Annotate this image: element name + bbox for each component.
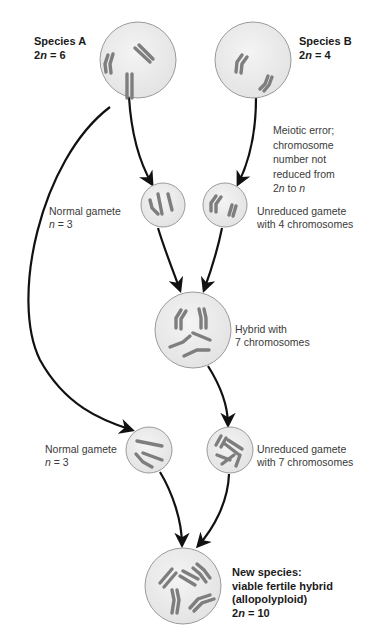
label-hybrid: Hybrid with 7 chromosomes xyxy=(235,323,310,349)
speciation-diagram xyxy=(0,0,376,642)
cell-unreduced-gamete-2 xyxy=(207,427,253,473)
hybrid-line1: Hybrid with xyxy=(235,323,310,336)
arrow-unreduced2-to-new xyxy=(198,474,229,546)
label-normal-gamete-1: Normal gamete n = 3 xyxy=(49,205,121,231)
label-normal-gamete-2: Normal gamete n = 3 xyxy=(45,443,117,469)
ploidy-var: n xyxy=(305,49,312,61)
cell-new-species xyxy=(145,548,221,624)
label-meiotic-error: Meiotic error; chromosome number not red… xyxy=(273,123,335,196)
species-b-ploidy: 2n = 4 xyxy=(299,49,352,63)
meiotic-line-3: number not xyxy=(273,152,335,167)
species-a-name: Species A xyxy=(34,35,86,49)
ploidy-var: n xyxy=(238,607,245,619)
label-unreduced-gamete-2: Unreduced gamete with 7 chromosomes xyxy=(257,443,353,469)
ploidy-var: n xyxy=(40,49,47,61)
text-n: n xyxy=(299,182,305,194)
unreduced-gamete-1-line1: Unreduced gamete xyxy=(257,205,353,218)
ploidy-suffix: = 3 xyxy=(55,218,73,230)
unreduced-gamete-2-line2: with 7 chromosomes xyxy=(257,456,353,469)
meiotic-line-4: reduced from xyxy=(273,167,335,182)
species-a-ploidy: 2n = 6 xyxy=(34,49,86,63)
new-species-line2: viable fertile hybrid xyxy=(232,580,333,594)
arrow-gamete2-to-new xyxy=(160,472,182,545)
new-species-ploidy: 2n = 10 xyxy=(232,607,333,621)
ploidy-suffix: = 4 xyxy=(312,49,331,61)
label-species-a: Species A 2n = 6 xyxy=(34,35,86,62)
new-species-line1: New species: xyxy=(232,566,333,580)
arrow-a-to-gamete2 xyxy=(28,107,132,430)
meiotic-line-1: Meiotic error; xyxy=(273,123,335,138)
normal-gamete-2-line1: Normal gamete xyxy=(45,443,117,456)
normal-gamete-1-ploidy: n = 3 xyxy=(49,218,121,231)
label-species-b: Species B 2n = 4 xyxy=(299,35,352,62)
normal-gamete-2-ploidy: n = 3 xyxy=(45,456,117,469)
label-unreduced-gamete-1: Unreduced gamete with 4 chromosomes xyxy=(257,205,353,231)
arrow-gamete1-to-hybrid xyxy=(158,228,180,290)
species-b-name: Species B xyxy=(299,35,352,49)
normal-gamete-1-line1: Normal gamete xyxy=(49,205,121,218)
ploidy-suffix: = 10 xyxy=(245,607,270,619)
meiotic-line-5: 2n to n xyxy=(273,181,335,196)
text-to: to xyxy=(285,182,300,194)
meiotic-line-2: chromosome xyxy=(273,138,335,153)
new-species-line3: (allopolyploid) xyxy=(232,593,333,607)
cell-species-b xyxy=(215,22,291,98)
ploidy-suffix: = 3 xyxy=(51,456,69,468)
hybrid-line2: 7 chromosomes xyxy=(235,336,310,349)
label-new-species: New species: viable fertile hybrid (allo… xyxy=(232,566,333,620)
arrow-a-to-gamete1 xyxy=(129,97,152,184)
arrow-hybrid-to-unreduced2 xyxy=(208,366,228,425)
unreduced-gamete-1-line2: with 4 chromosomes xyxy=(257,218,353,231)
arrow-b-to-unreduced1 xyxy=(238,98,256,184)
arrow-unreduced1-to-hybrid xyxy=(204,228,222,290)
ploidy-suffix: = 6 xyxy=(47,49,66,61)
unreduced-gamete-2-line1: Unreduced gamete xyxy=(257,443,353,456)
cell-hybrid xyxy=(155,292,231,368)
cell-normal-gamete-1 xyxy=(141,183,185,227)
